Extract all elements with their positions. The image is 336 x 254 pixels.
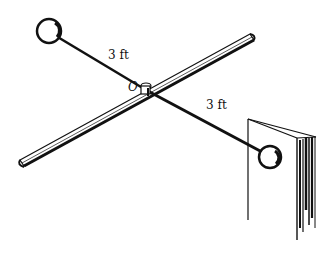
diagram-canvas: 3 ft 3 ft O	[0, 0, 336, 254]
upper-sphere	[37, 19, 61, 43]
upper-arm-length-label: 3 ft	[108, 48, 129, 62]
pivot-label: O	[128, 80, 138, 94]
lower-arm-length-label: 3 ft	[206, 98, 227, 112]
folded-card	[248, 119, 316, 240]
pivot-block	[141, 83, 151, 96]
diagram-drawing	[0, 0, 336, 254]
lower-sphere	[259, 146, 281, 168]
